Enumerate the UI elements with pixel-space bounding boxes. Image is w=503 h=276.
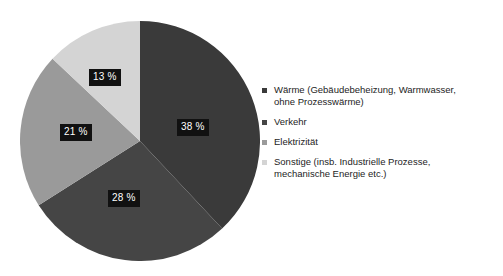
legend-swatch-icon bbox=[262, 160, 267, 165]
legend-item-sonstige[interactable]: Sonstige (insb. Industrielle Prozesse, m… bbox=[262, 156, 500, 180]
legend-item-label: Sonstige (insb. Industrielle Prozesse, m… bbox=[274, 156, 430, 180]
legend-item-label: Elektrizität bbox=[274, 136, 318, 148]
legend-label-line-1: Elektrizität bbox=[274, 136, 318, 147]
legend-label-line-2: ohne Prozesswärme) bbox=[274, 96, 364, 107]
chart-canvas: 38 % 28 % 21 % 13 % Wärme (Gebäudebeheiz… bbox=[0, 0, 503, 276]
legend-item-label: Verkehr bbox=[274, 116, 307, 128]
legend-label-line-1: Verkehr bbox=[274, 116, 307, 127]
legend-item-verkehr[interactable]: Verkehr bbox=[262, 116, 500, 128]
legend-swatch-icon bbox=[262, 120, 267, 125]
chart-legend: Wärme (Gebäudebeheizung, Warmwasser, ohn… bbox=[262, 84, 500, 180]
legend-item-waerme[interactable]: Wärme (Gebäudebeheizung, Warmwasser, ohn… bbox=[262, 84, 500, 108]
pie-svg bbox=[20, 21, 260, 261]
pie-data-label-2: 21 % bbox=[60, 124, 92, 141]
pie-data-label-0: 38 % bbox=[177, 119, 209, 136]
pie-chart bbox=[20, 21, 260, 261]
legend-item-label: Wärme (Gebäudebeheizung, Warmwasser, ohn… bbox=[274, 84, 456, 108]
pie-data-label-1: 28 % bbox=[108, 190, 140, 207]
legend-swatch-icon bbox=[262, 88, 267, 93]
legend-label-line-1: Sonstige (insb. Industrielle Prozesse, bbox=[274, 156, 430, 167]
legend-swatch-icon bbox=[262, 140, 267, 145]
legend-label-line-1: Wärme (Gebäudebeheizung, Warmwasser, bbox=[274, 84, 456, 95]
pie-data-label-3: 13 % bbox=[89, 69, 121, 86]
legend-item-elektrizitaet[interactable]: Elektrizität bbox=[262, 136, 500, 148]
legend-label-line-2: mechanische Energie etc.) bbox=[274, 168, 386, 179]
